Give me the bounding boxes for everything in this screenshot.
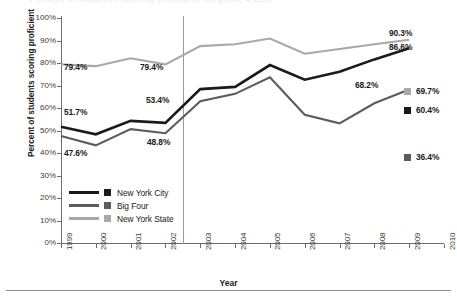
x-tick-label-2005: 2005 [273, 233, 282, 250]
legend-label: New York City [117, 188, 168, 198]
y-tick-label-30: 30% [22, 172, 56, 180]
marker-2010-new-york-city: 60.4% [404, 105, 439, 115]
y-tick-label-90: 90% [22, 37, 56, 45]
y-tick-label-80: 80% [22, 59, 56, 67]
legend-line-swatch-icon [69, 217, 99, 220]
y-axis-line [61, 16, 62, 245]
x-tick-mark-2007 [340, 244, 341, 248]
legend-square-marker-icon [104, 215, 111, 222]
x-tick-label-2002: 2002 [169, 233, 178, 250]
x-tick-label-1999: 1999 [65, 233, 74, 250]
legend-line-swatch-icon [69, 191, 99, 194]
series-line-new-york-city [61, 48, 409, 134]
legend-item-big-four[interactable]: Big Four [69, 199, 199, 212]
x-tick-label-2010: 2010 [448, 233, 457, 250]
x-tick-mark-1999 [61, 244, 62, 248]
y-tick-mark-90 [57, 41, 61, 42]
bottom-divider-rule [6, 290, 451, 291]
annotation-state-2002: 79.4% [140, 62, 163, 72]
marker-value-label: 60.4% [416, 105, 439, 115]
y-tick-mark-20 [57, 198, 61, 199]
annotation-state-1999: 79.4% [64, 62, 87, 72]
series-line-new-york-state [61, 38, 409, 66]
chart-title-remnant: Percent of students scoring proficient o… [30, 0, 360, 4]
x-tick-label-2003: 2003 [204, 233, 213, 250]
legend-square-marker-icon [104, 202, 111, 209]
legend-item-new-york-state[interactable]: New York State [69, 212, 199, 225]
y-tick-mark-100 [57, 18, 61, 19]
x-tick-label-2007: 2007 [343, 233, 352, 250]
y-tick-mark-10 [57, 221, 61, 222]
legend-label: Big Four [117, 201, 148, 211]
annotation-nyc-1999: 51.7% [64, 107, 87, 117]
y-tick-label-40: 40% [22, 149, 56, 157]
legend-square-marker-icon [104, 189, 111, 196]
y-tick-mark-80 [57, 63, 61, 64]
x-axis-title: Year [0, 278, 457, 288]
y-tick-mark-50 [57, 131, 61, 132]
y-tick-label-50: 50% [22, 127, 56, 135]
annotation-bigfour-2009: 68.2% [355, 80, 378, 90]
x-tick-mark-2009 [409, 244, 410, 248]
marker-2010-big-four: 36.4% [404, 152, 439, 162]
x-tick-mark-2006 [305, 244, 306, 248]
annotation-nyc-2002: 53.4% [146, 95, 169, 105]
marker-2010-new-york-state: 69.7% [404, 86, 439, 96]
chart-figure: Percent of students scoring proficient o… [0, 0, 457, 299]
y-tick-label-100: 100% [22, 14, 56, 22]
x-tick-mark-2002 [165, 244, 166, 248]
x-tick-label-2006: 2006 [308, 233, 317, 250]
marker-square-icon [404, 88, 411, 95]
annotation-bigfour-2002: 48.8% [147, 137, 170, 147]
marker-square-icon [404, 107, 411, 114]
x-tick-label-2004: 2004 [239, 233, 248, 250]
y-tick-mark-30 [57, 176, 61, 177]
y-tick-label-60: 60% [22, 104, 56, 112]
y-tick-label-70: 70% [22, 82, 56, 90]
y-tick-mark-70 [57, 86, 61, 87]
x-tick-label-2000: 2000 [99, 233, 108, 250]
chart-legend: New York CityBig FourNew York State [69, 186, 199, 225]
marker-value-label: 69.7% [416, 86, 439, 96]
legend-label: New York State [117, 214, 174, 224]
y-axis-tick-labels: 100%90%80%70%60%50%40%30%20%10%0% [22, 0, 56, 299]
x-tick-label-2008: 2008 [378, 233, 387, 250]
y-tick-label-20: 20% [22, 194, 56, 202]
y-tick-label-10: 10% [22, 217, 56, 225]
x-tick-mark-2003 [200, 244, 201, 248]
annotation-state-2009: 90.3% [389, 28, 412, 38]
annotation-bigfour-1999: 47.6% [64, 148, 87, 158]
marker-value-label: 36.4% [416, 152, 439, 162]
y-tick-mark-60 [57, 108, 61, 109]
x-tick-label-2001: 2001 [134, 233, 143, 250]
x-tick-mark-2008 [374, 244, 375, 248]
marker-square-icon [404, 154, 411, 161]
annotation-nyc-2009: 86.6% [389, 42, 412, 52]
x-tick-mark-2004 [235, 244, 236, 248]
legend-item-new-york-city[interactable]: New York City [69, 186, 199, 199]
y-tick-mark-40 [57, 153, 61, 154]
x-tick-label-2009: 2009 [413, 233, 422, 250]
x-tick-mark-2000 [96, 244, 97, 248]
x-tick-mark-2001 [131, 244, 132, 248]
y-tick-label-0: 0% [22, 239, 56, 247]
legend-line-swatch-icon [69, 204, 99, 207]
x-tick-mark-2010 [444, 244, 445, 248]
x-tick-mark-2005 [270, 244, 271, 248]
